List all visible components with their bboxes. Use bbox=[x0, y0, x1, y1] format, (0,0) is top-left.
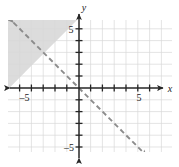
x-tick-label-neg5: –5 bbox=[19, 92, 30, 103]
y-tick-label-5: 5 bbox=[69, 24, 74, 35]
y-tick-label-neg5: –5 bbox=[63, 142, 74, 153]
x-tick-label-5: 5 bbox=[137, 92, 142, 103]
inequality-graph-figure: –5 5 5 –5 x y bbox=[0, 0, 179, 167]
y-axis-label: y bbox=[81, 2, 87, 13]
x-axis-label: x bbox=[167, 83, 173, 94]
coordinate-plane-svg: –5 5 5 –5 x y bbox=[0, 0, 179, 167]
